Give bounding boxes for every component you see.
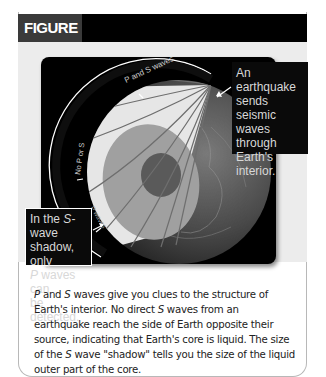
text: In the (30, 212, 63, 226)
italic-text: P (30, 268, 38, 282)
figure-caption: P and S waves give you clues to the stru… (34, 287, 296, 377)
callout-line: Earth's interior. (236, 150, 304, 178)
earthquake-callout: An earthquake sends seismic waves throug… (232, 62, 308, 154)
callout-line: waves through (236, 122, 304, 150)
callout-line: shadow, only (30, 240, 87, 268)
text: wave "shadow" tells you the size of the … (34, 349, 295, 375)
label-no-p-or-s: No P or S (73, 142, 86, 175)
text: and (40, 289, 64, 300)
callout-line: An earthquake (236, 66, 304, 94)
figure-label: FIGURE 6-2 (18, 14, 82, 42)
shadow-zone-callout: In the S-wave shadow, only P waves can b… (25, 208, 92, 266)
callout-line: sends seismic (236, 94, 304, 122)
callout-line: In the S-wave (30, 212, 87, 240)
